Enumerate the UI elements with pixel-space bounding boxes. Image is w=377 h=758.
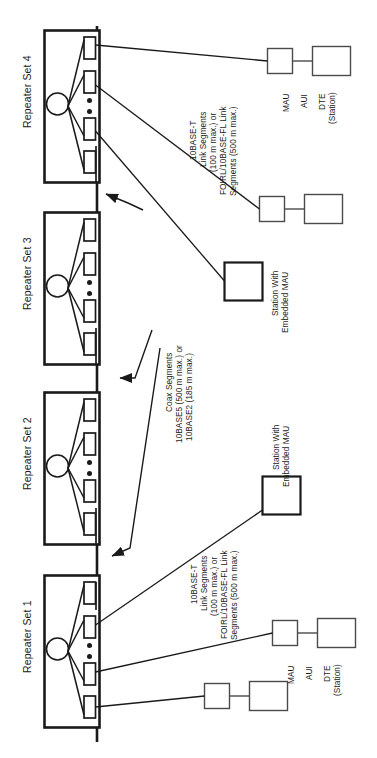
aui-label-bottom: AUI — [305, 666, 315, 680]
coax-note-line1: Coax Segments — [165, 352, 175, 412]
link-note-bottom-line1: 10BASE-T — [190, 565, 200, 604]
dte-station-group-top[interactable] — [268, 47, 351, 76]
dte-station-group-last[interactable] — [205, 682, 288, 711]
station-note-lower-line1: Station With — [272, 425, 282, 470]
dte-label-top-line2: (Station) — [328, 92, 338, 124]
coax-callout-leaders — [106, 194, 160, 556]
station-embedded-mau-upper[interactable] — [225, 263, 263, 301]
link-note-top-line1: 10BASE-T — [189, 121, 199, 160]
aui-label-top: AUI — [300, 94, 310, 108]
repeater-set-2-label: Repeater Set 2 — [22, 417, 33, 490]
station-note-upper-line1: Station With — [271, 271, 281, 316]
link-note-bottom-line2: Link Segments — [200, 556, 210, 611]
link-note-top-line2: Link Segments — [199, 112, 209, 167]
link-note-bottom-line3: (100 m max.) or — [210, 557, 220, 616]
dte-station-group-bottom[interactable] — [273, 619, 356, 648]
dte-label-bottom-line2: (Station) — [333, 664, 343, 696]
mau-label-bottom: MAU — [287, 666, 297, 685]
station-note-lower-line2: Embedded MAU — [282, 426, 292, 487]
link-note-top-line3: (100 m max.) or — [209, 113, 219, 172]
link-r4-port1 — [96, 45, 268, 61]
repeater-set-1-group[interactable] — [45, 576, 100, 728]
dte-station-group-mid[interactable] — [260, 195, 343, 224]
coax-note-line2: 10BASE5 (500 m max.) or — [175, 345, 185, 443]
link-note-top-line4: FOIRL/10BASE-FL Link — [219, 106, 229, 195]
repeater-set-2-group[interactable] — [45, 393, 100, 545]
repeater-set-1-label: Repeater Set 1 — [22, 600, 33, 673]
station-note-upper-line2: Embedded MAU — [281, 272, 291, 333]
dte-label-top-line1: DTE — [318, 93, 328, 110]
link-r1-port3 — [96, 633, 273, 672]
mau-label-top: MAU — [282, 94, 292, 113]
coax-note-line3: 10BASE2 (185 m max.) — [185, 353, 195, 441]
link-r1-port4 — [96, 696, 205, 707]
link-note-bottom-line5: Segments (500 m max.) — [230, 551, 240, 640]
repeater-set-3-label: Repeater Set 3 — [22, 237, 33, 310]
repeater-set-3-group[interactable] — [45, 213, 100, 365]
repeater-set-4-group[interactable] — [45, 31, 100, 183]
diagram-canvas: Repeater Set 4 Repeater Set 3 Repeater S… — [0, 0, 377, 758]
link-note-bottom-line4: FOIRL/10BASE-FL Link — [220, 550, 230, 639]
dte-label-bottom-line1: DTE — [323, 665, 333, 682]
link-note-top-line5: Segments (500 m max.) — [229, 107, 239, 196]
repeater-set-4-label: Repeater Set 4 — [22, 55, 33, 128]
